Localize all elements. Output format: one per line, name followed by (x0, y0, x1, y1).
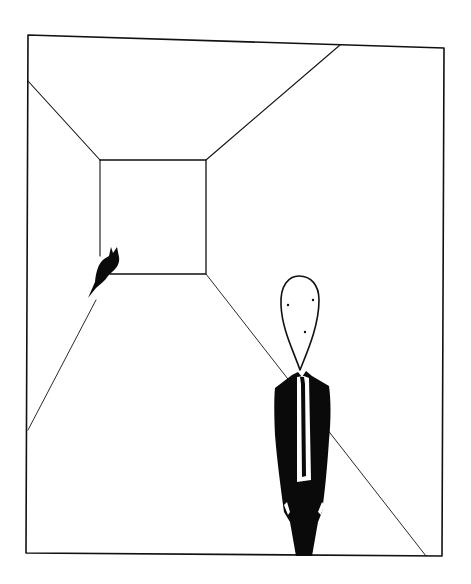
figure-eye-right (312, 299, 314, 301)
figure-nose (304, 331, 306, 333)
figure-eye-left (287, 304, 289, 306)
background (0, 0, 471, 584)
illustration-canvas (0, 0, 471, 584)
